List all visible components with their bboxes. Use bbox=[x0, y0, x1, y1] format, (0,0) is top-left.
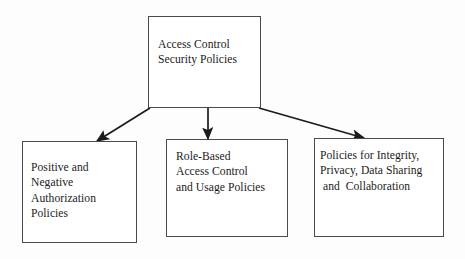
diagram-canvas: Access Control Security Policies Positiv… bbox=[0, 0, 465, 259]
node-leaf-1-label: Positive and Negative Authorization Poli… bbox=[31, 160, 96, 222]
node-leaf-3-label: Policies for Integrity, Privacy, Data Sh… bbox=[320, 148, 422, 194]
node-role-based-access-control-and-usage-policies[interactable]: Role-Based Access Control and Usage Poli… bbox=[166, 139, 288, 237]
arrow-root-to-leaf-1 bbox=[97, 108, 150, 141]
node-access-control-security-policies[interactable]: Access Control Security Policies bbox=[148, 16, 261, 108]
node-positive-and-negative-authorization-policies[interactable]: Positive and Negative Authorization Poli… bbox=[22, 141, 137, 243]
node-root-label: Access Control Security Policies bbox=[158, 37, 237, 68]
node-leaf-2-label: Role-Based Access Control and Usage Poli… bbox=[176, 149, 265, 195]
arrow-root-to-leaf-3 bbox=[259, 108, 364, 138]
node-policies-for-integrity-privacy-data-sharing-and-collaboration[interactable]: Policies for Integrity, Privacy, Data Sh… bbox=[314, 138, 444, 237]
